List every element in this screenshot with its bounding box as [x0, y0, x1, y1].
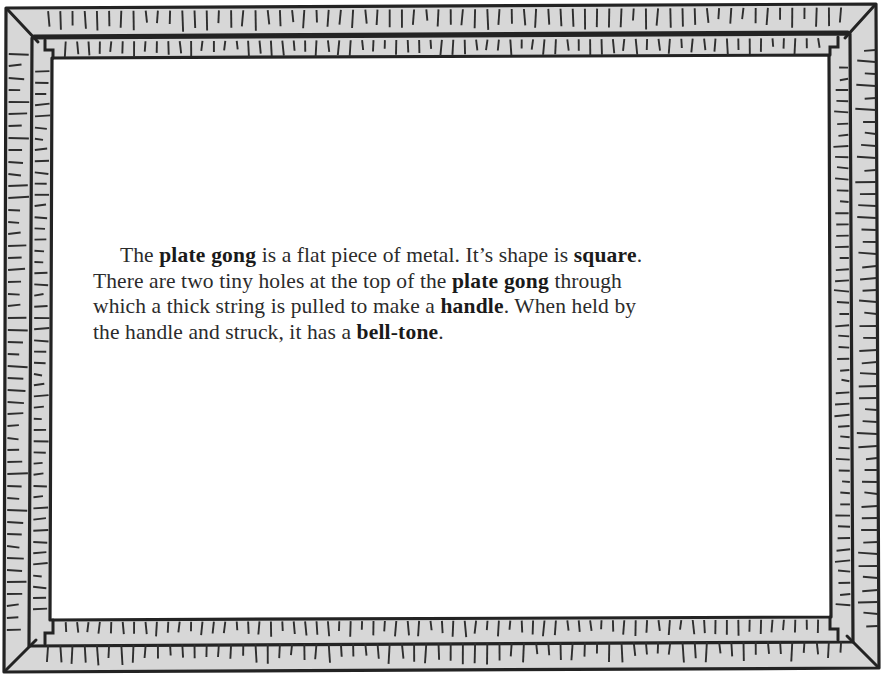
corner-miter-top-left: [8, 10, 38, 42]
ruler-tick: [201, 41, 202, 51]
ruler-tick: [60, 645, 61, 662]
ruler-tick: [838, 448, 849, 449]
ruler-tick: [452, 40, 453, 55]
ruler-tick: [862, 362, 877, 363]
ruler-tick: [817, 641, 818, 654]
ruler-tick: [365, 644, 366, 656]
ruler-tick: [861, 506, 877, 507]
ruler-tick: [476, 40, 477, 51]
ruler-tick: [9, 113, 28, 114]
ruler-tick: [865, 73, 876, 74]
ruler-tick: [224, 41, 225, 51]
ruler-tick: [669, 39, 670, 54]
ruler-tick: [7, 570, 22, 571]
ruler-tick: [727, 39, 728, 55]
ruler-tick: [835, 325, 849, 326]
ruler-tick: [230, 644, 231, 659]
ruler-tick: [767, 8, 768, 25]
ruler-tick: [840, 79, 848, 80]
ruler-tick: [280, 10, 281, 26]
ruler-tick: [35, 128, 47, 129]
ruler-tick: [33, 507, 48, 508]
ruler-tick: [621, 9, 622, 28]
ruler-tick: [7, 510, 27, 511]
ruler-tick: [860, 278, 876, 280]
ruler-tick: [180, 41, 181, 53]
ruler-tick: [590, 620, 591, 630]
ruler-tick: [8, 413, 24, 414]
ruler-tick: [858, 446, 877, 447]
ruler-tick: [438, 9, 439, 26]
ruler-tick: [316, 40, 317, 56]
ruler-tick: [418, 621, 419, 636]
ruler-tick: [834, 415, 849, 416]
ruler-tick: [7, 546, 19, 548]
ruler-tick: [522, 621, 523, 633]
ruler-tick: [863, 421, 877, 422]
ruler-tick: [838, 571, 850, 572]
ruler-tick: [260, 41, 261, 54]
ruler-tick: [65, 42, 66, 57]
ruler-tick: [440, 40, 442, 56]
ruler-tick: [329, 644, 330, 663]
ruler-tick: [783, 620, 784, 630]
ruler-tick: [7, 534, 22, 535]
ruler-tick: [498, 9, 499, 25]
ruler-tick: [838, 426, 849, 427]
ruler-tick: [294, 41, 295, 51]
ruler-tick: [8, 402, 24, 403]
ruler-tick: [237, 622, 238, 631]
ruler-tick: [168, 622, 169, 633]
ruler-tick: [855, 109, 875, 110]
ruler-tick: [317, 621, 318, 634]
ruler-tick: [561, 9, 562, 26]
ruler-tick: [768, 642, 769, 654]
ruler-tick: [89, 41, 90, 55]
ruler-tick: [8, 342, 23, 343]
ruler-tick: [182, 11, 183, 32]
ruler-tick: [303, 10, 304, 28]
ruler-tick: [730, 8, 731, 24]
ruler-tick: [8, 185, 27, 186]
ruler-tick: [34, 395, 49, 396]
ruler-tick: [146, 622, 147, 634]
corner-notch-top-left: [45, 40, 53, 58]
ruler-tick: [858, 253, 876, 254]
ruler-tick: [350, 40, 351, 56]
ruler-tick: [498, 621, 499, 637]
ruler-tick: [34, 384, 44, 385]
ruler-tick: [864, 50, 875, 51]
body-text-run: The: [120, 243, 159, 267]
ruler-tick: [426, 9, 427, 20]
ruler-tick: [282, 41, 284, 56]
ruler-tick: [248, 621, 249, 633]
ruler-tick: [294, 621, 295, 634]
ruler-tick: [248, 41, 249, 57]
ruler-tick: [9, 54, 29, 55]
corner-miter-bottom-left: [6, 640, 36, 670]
ruler-tick: [704, 620, 705, 633]
ruler-tick: [121, 11, 122, 28]
ruler-tick: [7, 473, 28, 474]
ruler-tick: [123, 622, 124, 634]
ruler-tick: [863, 290, 877, 291]
ruler-tick: [543, 621, 545, 637]
ruler-tick: [555, 620, 556, 635]
ruler-tick: [863, 577, 878, 578]
ruler-tick: [157, 11, 158, 23]
corner-miter-top-right: [845, 6, 874, 38]
ruler-tick: [389, 643, 390, 663]
ruler-tick: [523, 643, 524, 663]
ruler-tick: [279, 644, 280, 658]
ruler-tick: [681, 39, 682, 48]
ruler-tick: [328, 621, 329, 636]
ruler-tick: [863, 542, 877, 543]
ruler-tick: [862, 266, 876, 268]
ruler-tick: [33, 552, 46, 553]
ruler-tick: [33, 542, 47, 543]
ruler-tick: [836, 604, 851, 605]
corner-miter-bottom-right: [847, 636, 877, 666]
ruler-tick: [695, 642, 696, 658]
ruler-tick: [292, 10, 293, 22]
ruler-tick: [657, 8, 659, 25]
